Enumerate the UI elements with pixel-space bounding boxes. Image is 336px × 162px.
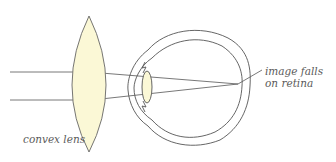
retina-label: image falls on retina — [265, 65, 323, 89]
eye-sclera-outer — [148, 30, 250, 145]
light-rays — [10, 72, 238, 100]
eye-lens — [142, 71, 152, 103]
retina-label-line2: on retina — [265, 77, 323, 89]
convex-lens — [72, 16, 106, 152]
convex-lens-label: convex lens — [23, 133, 85, 145]
light-ray-bottom — [10, 84, 238, 100]
diagram-canvas: convex lens image falls on retina — [0, 0, 336, 162]
light-ray-top — [10, 72, 238, 84]
retina-label-line1: image falls — [265, 65, 323, 77]
